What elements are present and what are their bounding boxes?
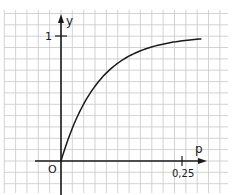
x-axis-arrow-icon — [198, 158, 207, 164]
x-tick-label: 0,25 — [172, 168, 194, 179]
grid-lines — [4, 10, 228, 193]
function-plot: y p O 1 0,25 — [0, 0, 233, 195]
y-axis-arrow-icon — [58, 14, 64, 23]
y-tick-label: 1 — [45, 30, 52, 43]
curve — [61, 39, 201, 161]
x-axis-label: p — [195, 142, 203, 156]
origin-label: O — [48, 163, 57, 176]
y-axis-label: y — [66, 14, 73, 28]
